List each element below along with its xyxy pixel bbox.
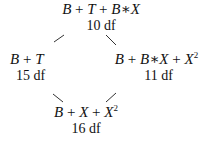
edge-top-right: [106, 35, 116, 45]
edge-left-bottom: [53, 94, 63, 102]
node-top: B + T + B∗X 10 df: [40, 1, 162, 34]
edge-top-left: [54, 35, 64, 42]
node-bottom: B + X + X2 16 df: [46, 104, 126, 137]
node-left-df: 15 df: [10, 68, 52, 84]
node-right: B + B∗X + X2 11 df: [110, 51, 203, 84]
node-right-df: 11 df: [110, 68, 203, 84]
node-right-expression: B + B∗X + X2: [110, 51, 203, 68]
node-bottom-expression: B + X + X2: [46, 104, 126, 121]
node-top-df: 10 df: [40, 18, 162, 34]
node-left: B + T 15 df: [10, 51, 52, 84]
edge-right-bottom: [106, 93, 116, 102]
node-bottom-df: 16 df: [46, 121, 126, 137]
node-left-expression: B + T: [10, 51, 52, 68]
node-top-expression: B + T + B∗X: [40, 1, 162, 18]
